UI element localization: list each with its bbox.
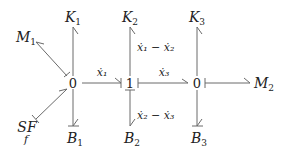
junction-0-left: 0 (69, 76, 77, 91)
element-k2: K2 (121, 9, 138, 27)
bond-j0b-b3 (192, 90, 203, 126)
bond-j0a-b1 (68, 89, 79, 126)
bond-j0a-j1 (82, 78, 121, 88)
bond-sf-j0a (32, 89, 67, 123)
bond-j0b-m2 (205, 78, 250, 88)
flow-label-x2-minus-x3: ẋ₂ − ẋ₃ (137, 109, 174, 122)
element-k3: K3 (188, 9, 205, 27)
element-k1: K1 (64, 9, 81, 27)
bond-j0b-j1 (138, 78, 188, 88)
bond-j0a-k1 (73, 27, 78, 76)
bond-j0b-k3 (197, 27, 202, 76)
junction-0-right: 0 (193, 76, 201, 91)
bond-j0a-m1 (36, 42, 70, 77)
bond-j1-b2 (125, 90, 135, 126)
flow-label-x3: ẋ₃ (159, 66, 170, 79)
element-b3: B3 (190, 130, 207, 148)
bond-j1-k2 (130, 27, 135, 76)
element-b1: B1 (66, 130, 83, 148)
element-b2: B2 (123, 130, 140, 148)
junction-1: 1 (126, 76, 134, 91)
flow-label-x1: ẋ₁ (97, 66, 108, 79)
element-m1: M1 (15, 29, 36, 47)
flow-label-x1-minus-x2: ẋ₁ − ẋ₂ (137, 41, 174, 54)
bond-graph-diagram: 0 1 0 K1 K2 K3 M1 M2 B1 B2 B3 SF f ẋ₁ ẋ₃… (0, 0, 282, 157)
element-m2: M2 (253, 75, 274, 93)
